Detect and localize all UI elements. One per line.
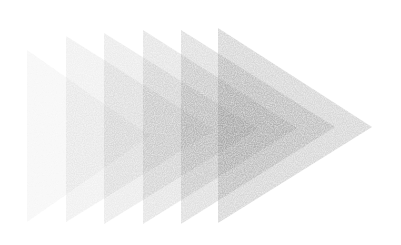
triangle-shape-6 [218,28,372,223]
triangle-stack [27,28,372,224]
forward-triangles-illustration [0,0,401,245]
